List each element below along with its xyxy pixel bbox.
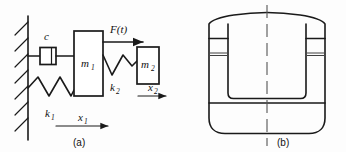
left-mount-notch <box>209 39 228 56</box>
viscous-damper-c <box>28 48 74 65</box>
coil-spring-k2 <box>103 55 137 75</box>
spring2-label: k 2 <box>110 81 120 96</box>
mass2-label-sub: 2 <box>151 64 155 73</box>
panel-a-caption: (a) <box>73 137 85 148</box>
figure-container: c k 1 m 1 F(t) <box>0 0 346 152</box>
spring2-label-sub: 2 <box>116 87 120 96</box>
damper-label: c <box>44 30 49 42</box>
spring1-label: k 1 <box>45 107 55 122</box>
right-mount-notch <box>306 39 325 56</box>
disp1-label-sub: 1 <box>84 117 88 126</box>
panel-a-group: c k 1 m 1 F(t) <box>15 16 166 148</box>
mass1-label-sub: 1 <box>91 63 95 72</box>
mass1-label-text: m <box>81 57 89 69</box>
disp2-label-text: x <box>147 81 153 93</box>
disp1-label: x 1 <box>77 111 88 126</box>
wall-hatching <box>15 22 28 131</box>
figure-svg: c k 1 m 1 F(t) <box>0 0 346 152</box>
disp2-label-sub: 2 <box>154 87 158 96</box>
mass2-label-text: m <box>141 58 149 70</box>
spring1-label-sub: 1 <box>51 113 55 122</box>
panel-b-group: (b) <box>209 5 325 148</box>
fixed-support-wall <box>15 16 28 140</box>
force-label: F(t) <box>109 23 127 36</box>
disp1-label-text: x <box>77 111 83 123</box>
panel-b-caption: (b) <box>277 137 289 148</box>
coil-spring-k1 <box>28 77 74 96</box>
